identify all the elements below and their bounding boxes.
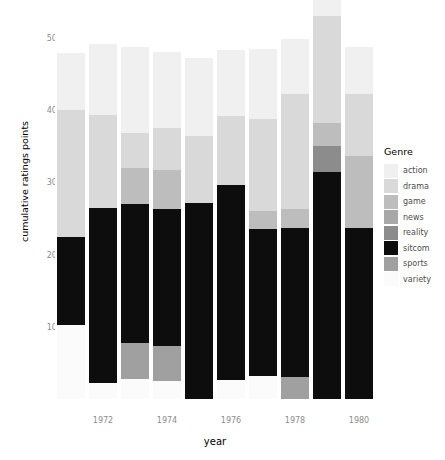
bar-segment-1975-drama[interactable] xyxy=(185,136,213,203)
bar-segment-1974-sitcom[interactable] xyxy=(153,209,181,346)
bar-segment-1973-variety[interactable] xyxy=(121,379,149,399)
legend-label-game: game xyxy=(403,197,426,206)
x-tick-1974: 1974 xyxy=(147,416,187,425)
bar-1978[interactable] xyxy=(281,39,309,399)
bar-segment-1975-sitcom[interactable] xyxy=(185,203,213,399)
bar-segment-1977-variety[interactable] xyxy=(249,376,277,399)
bar-segment-1974-action[interactable] xyxy=(153,52,181,127)
bar-segment-1977-game[interactable] xyxy=(249,211,277,229)
bar-1979[interactable] xyxy=(313,0,341,399)
legend-swatch-variety xyxy=(384,272,398,286)
bar-segment-1978-game[interactable] xyxy=(281,209,309,228)
bar-segment-1971-drama[interactable] xyxy=(57,110,85,236)
bar-segment-1972-drama[interactable] xyxy=(89,115,117,209)
bar-segment-1974-drama[interactable] xyxy=(153,128,181,171)
bar-1976[interactable] xyxy=(217,50,245,399)
bar-segment-1971-variety[interactable] xyxy=(57,325,85,399)
legend-label-sports: sports xyxy=(403,259,428,268)
bar-1971[interactable] xyxy=(57,53,85,399)
legend-item-action[interactable]: action xyxy=(384,163,445,179)
bar-segment-1973-action[interactable] xyxy=(121,47,149,133)
legend-title: Genre xyxy=(384,146,445,157)
legend-item-news[interactable]: news xyxy=(384,210,445,226)
legend-item-sitcom[interactable]: sitcom xyxy=(384,241,445,257)
bar-segment-1979-drama[interactable] xyxy=(313,16,341,122)
legend-label-sitcom: sitcom xyxy=(403,244,430,253)
bar-segment-1978-drama[interactable] xyxy=(281,94,309,209)
bar-segment-1971-action[interactable] xyxy=(57,53,85,110)
bar-1980[interactable] xyxy=(345,47,373,399)
bar-1977[interactable] xyxy=(249,49,277,399)
bar-segment-1976-sitcom[interactable] xyxy=(217,185,245,380)
bar-segment-1976-variety[interactable] xyxy=(217,380,245,399)
bar-1975[interactable] xyxy=(185,58,213,399)
bar-segment-1973-sitcom[interactable] xyxy=(121,204,149,343)
bar-segment-1973-sports[interactable] xyxy=(121,343,149,378)
bar-segment-1979-sitcom[interactable] xyxy=(313,172,341,399)
x-axis-title: year xyxy=(55,436,375,447)
bar-segment-1976-action[interactable] xyxy=(217,50,245,116)
bar-1974[interactable] xyxy=(153,52,181,399)
bar-segment-1977-action[interactable] xyxy=(249,49,277,119)
bar-segment-1975-action[interactable] xyxy=(185,58,213,136)
legend-swatch-reality xyxy=(384,226,398,240)
legend-swatch-news xyxy=(384,210,398,224)
bar-segment-1974-game[interactable] xyxy=(153,170,181,209)
x-tick-1976: 1976 xyxy=(211,416,251,425)
x-tick-1972: 1972 xyxy=(83,416,123,425)
legend-label-action: action xyxy=(403,166,428,175)
bar-segment-1980-action[interactable] xyxy=(345,47,373,93)
bar-segment-1974-sports[interactable] xyxy=(153,346,181,381)
legend: Genre actiondramagamenewsrealitysitcomsp… xyxy=(384,146,445,287)
legend-swatch-sitcom xyxy=(384,241,398,255)
legend-swatch-action xyxy=(384,164,398,178)
bar-segment-1972-action[interactable] xyxy=(89,44,117,115)
bar-segment-1971-sitcom[interactable] xyxy=(57,237,85,325)
x-tick-1980: 1980 xyxy=(339,416,379,425)
bar-1973[interactable] xyxy=(121,47,149,399)
legend-item-sports[interactable]: sports xyxy=(384,256,445,272)
bar-segment-1978-sports[interactable] xyxy=(281,377,309,399)
legend-label-variety: variety xyxy=(403,275,431,284)
bar-segment-1974-variety[interactable] xyxy=(153,381,181,399)
bar-1972[interactable] xyxy=(89,44,117,399)
legend-swatch-sports xyxy=(384,257,398,271)
legend-item-variety[interactable]: variety xyxy=(384,272,445,288)
x-tick-1978: 1978 xyxy=(275,416,315,425)
legend-label-news: news xyxy=(403,213,424,222)
bar-segment-1972-variety[interactable] xyxy=(89,383,117,399)
bar-segment-1978-action[interactable] xyxy=(281,39,309,95)
legend-swatch-game xyxy=(384,195,398,209)
bar-segment-1980-sitcom[interactable] xyxy=(345,228,373,399)
legend-label-reality: reality xyxy=(403,228,428,237)
legend-item-reality[interactable]: reality xyxy=(384,225,445,241)
bar-segment-1977-sitcom[interactable] xyxy=(249,229,277,376)
legend-swatch-drama xyxy=(384,179,398,193)
legend-label-drama: drama xyxy=(403,182,429,191)
bar-segment-1972-sitcom[interactable] xyxy=(89,208,117,383)
bar-segment-1976-drama[interactable] xyxy=(217,116,245,185)
plot-panel xyxy=(55,28,375,411)
bar-segment-1978-sitcom[interactable] xyxy=(281,228,309,377)
bar-segment-1979-action[interactable] xyxy=(313,0,341,16)
bar-segment-1973-game[interactable] xyxy=(121,168,149,204)
legend-items: actiondramagamenewsrealitysitcomsportsva… xyxy=(384,163,445,287)
bar-segment-1973-drama[interactable] xyxy=(121,133,149,168)
bar-segment-1980-game[interactable] xyxy=(345,156,373,228)
bar-segment-1977-drama[interactable] xyxy=(249,119,277,211)
legend-item-drama[interactable]: drama xyxy=(384,179,445,195)
bar-segment-1980-drama[interactable] xyxy=(345,94,373,156)
legend-item-game[interactable]: game xyxy=(384,194,445,210)
chart-root: cumulative ratings points 01002003004005… xyxy=(0,0,445,460)
bar-segment-1979-game[interactable] xyxy=(313,123,341,146)
bar-segment-1979-reality[interactable] xyxy=(313,146,341,173)
